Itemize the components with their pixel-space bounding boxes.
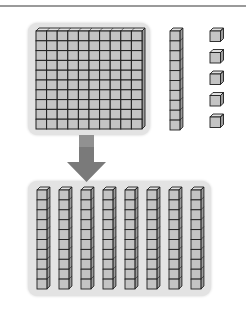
regrouped-ten-rod bbox=[169, 187, 182, 289]
unit-cube bbox=[210, 50, 224, 64]
unit-cube bbox=[210, 28, 224, 42]
regrouped-ten-rod bbox=[59, 187, 72, 289]
ten-rod bbox=[170, 28, 183, 130]
base-ten-diagram bbox=[0, 0, 246, 321]
regrouped-ten-rod bbox=[125, 187, 138, 289]
regrouped-ten-rod bbox=[81, 187, 94, 289]
unit-cube bbox=[210, 93, 224, 107]
regrouped-ten-rod bbox=[191, 187, 204, 289]
regrouped-ten-rod bbox=[103, 187, 116, 289]
hundreds-flat bbox=[36, 28, 145, 129]
unit-cube bbox=[210, 114, 224, 128]
regrouped-ten-rod bbox=[37, 187, 50, 289]
regrouped-ten-rod bbox=[147, 187, 160, 289]
unit-cube bbox=[210, 71, 224, 85]
